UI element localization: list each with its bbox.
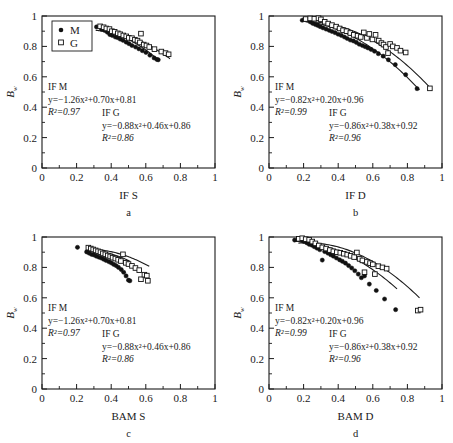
data-point-open-square bbox=[386, 51, 391, 56]
data-point-open-square bbox=[352, 255, 357, 260]
x-tick-label: 0 bbox=[266, 171, 272, 183]
y-tick-label: 0.6 bbox=[23, 292, 37, 304]
data-point-open-square bbox=[147, 45, 152, 50]
x-tick-label: 0.2 bbox=[297, 392, 311, 404]
data-point-filled-circle bbox=[415, 87, 419, 91]
data-point-open-square bbox=[362, 30, 367, 35]
chart-panel-a: 00.20.40.60.8100.20.40.60.81MGBwIF SaIF … bbox=[0, 0, 226, 221]
annotation-title-1: IF M bbox=[48, 82, 68, 92]
data-point-open-square bbox=[398, 48, 403, 53]
y-tick-label: 0.8 bbox=[23, 261, 37, 273]
data-point-open-square bbox=[121, 252, 126, 257]
y-tick-label: 1 bbox=[32, 10, 38, 22]
annotation-r2-1: R²=0.97 bbox=[47, 107, 81, 117]
data-point-open-square bbox=[367, 32, 372, 37]
data-point-open-square bbox=[358, 35, 363, 40]
annotation-equation-2: y=−0.88x²+0.46x+0.86 bbox=[102, 121, 191, 131]
y-tick-label: 1 bbox=[32, 231, 38, 243]
annotation-equation-1: y=−0.82x²+0.20x+0.96 bbox=[275, 95, 364, 105]
legend-label-g: G bbox=[70, 37, 78, 49]
plot-frame bbox=[269, 16, 442, 168]
y-tick-label: 0.8 bbox=[23, 40, 37, 52]
chart-panel-d: 00.20.40.60.8100.20.40.60.81BwBAM DdIF M… bbox=[227, 221, 453, 442]
data-point-open-square bbox=[418, 307, 423, 312]
y-tick-label: 0.2 bbox=[250, 132, 264, 144]
data-point-open-square bbox=[403, 50, 408, 55]
annotation-title-2: IF G bbox=[102, 108, 120, 118]
y-tick-label: 0.6 bbox=[250, 292, 264, 304]
data-point-open-square bbox=[371, 262, 376, 267]
y-tick-label: 0 bbox=[259, 383, 265, 395]
y-axis-title-text: Bw bbox=[231, 307, 246, 319]
x-tick-label: 0.4 bbox=[331, 392, 345, 404]
data-point-filled-circle bbox=[404, 73, 408, 77]
data-point-open-square bbox=[373, 33, 378, 38]
x-tick-label: 0.6 bbox=[366, 392, 380, 404]
data-point-filled-circle bbox=[353, 269, 357, 273]
chart-panel-c: 00.20.40.60.8100.20.40.60.81BwBAM ScIF M… bbox=[0, 221, 226, 442]
data-point-open-square bbox=[139, 277, 144, 282]
series-M bbox=[300, 17, 419, 91]
data-point-open-square bbox=[139, 31, 144, 36]
legend-marker-filled-circle bbox=[59, 28, 64, 33]
series-G bbox=[86, 245, 150, 283]
data-point-filled-circle bbox=[393, 63, 397, 67]
data-point-filled-circle bbox=[156, 58, 160, 62]
y-axis-title: Bw bbox=[231, 86, 246, 98]
y-tick-label: 0.8 bbox=[250, 261, 264, 273]
y-axis-title-sub: w bbox=[238, 86, 246, 91]
y-tick-label: 0 bbox=[32, 162, 38, 174]
x-tick-label: 0.6 bbox=[139, 171, 153, 183]
y-axis-title-text: Bw bbox=[4, 307, 19, 319]
plot-svg: 00.20.40.60.8100.20.40.60.81MGBwIF SaIF … bbox=[0, 0, 226, 221]
y-axis-title-sub: w bbox=[11, 86, 19, 91]
data-point-open-square bbox=[362, 270, 367, 275]
y-tick-label: 0.4 bbox=[23, 101, 37, 113]
annotation-r2-2: R²=0.86 bbox=[101, 133, 134, 143]
x-tick-label: 0.4 bbox=[104, 392, 118, 404]
data-point-open-square bbox=[119, 259, 124, 264]
data-point-open-square bbox=[384, 266, 389, 271]
y-tick-label: 1 bbox=[259, 231, 265, 243]
data-point-open-square bbox=[145, 273, 150, 278]
annotation-r2-2: R²=0.96 bbox=[328, 354, 361, 364]
x-tick-label: 0.2 bbox=[70, 171, 84, 183]
data-point-filled-circle bbox=[394, 308, 398, 312]
y-tick-label: 1 bbox=[259, 10, 265, 22]
x-tick-label: 0.4 bbox=[331, 171, 345, 183]
x-tick-label: 0.2 bbox=[70, 392, 84, 404]
x-tick-label: 0 bbox=[266, 392, 272, 404]
annotation-equation-1: y=−0.82x²+0.20x+0.96 bbox=[275, 316, 364, 326]
chart-panel-b: 00.20.40.60.8100.20.40.60.81BwIF DbIF My… bbox=[227, 0, 453, 221]
plot-svg: 00.20.40.60.8100.20.40.60.81BwBAM ScIF M… bbox=[0, 221, 226, 442]
data-point-open-square bbox=[370, 37, 375, 42]
x-tick-label: 0.6 bbox=[139, 392, 153, 404]
x-tick-label: 1 bbox=[212, 392, 218, 404]
data-point-filled-circle bbox=[382, 297, 386, 301]
data-point-open-square bbox=[355, 250, 360, 255]
annotation-r2-2: R²=0.86 bbox=[101, 354, 134, 364]
annotation-equation-2: y=−0.88x²+0.46x+0.86 bbox=[102, 342, 191, 352]
y-tick-label: 0.2 bbox=[23, 353, 37, 365]
plot-frame bbox=[42, 237, 215, 389]
data-point-filled-circle bbox=[148, 53, 152, 57]
annotation-title-1: IF M bbox=[275, 82, 295, 92]
y-tick-label: 0.2 bbox=[23, 132, 37, 144]
legend-marker-open-square bbox=[59, 40, 64, 45]
y-axis-title: Bw bbox=[4, 307, 19, 319]
x-tick-label: 0.8 bbox=[401, 171, 415, 183]
panel-caption: a bbox=[126, 207, 131, 218]
data-point-filled-circle bbox=[356, 272, 360, 276]
x-axis-title: BAM D bbox=[338, 410, 374, 422]
data-point-filled-circle bbox=[381, 54, 385, 58]
y-axis-title-sub: w bbox=[238, 307, 246, 312]
x-tick-label: 1 bbox=[439, 392, 445, 404]
annotation-r2-1: R²=0.97 bbox=[47, 328, 81, 338]
y-tick-label: 0.4 bbox=[250, 101, 264, 113]
x-axis-title: IF S bbox=[119, 189, 138, 201]
x-tick-label: 0.8 bbox=[174, 392, 188, 404]
data-point-filled-circle bbox=[320, 258, 324, 262]
x-tick-label: 0.6 bbox=[366, 171, 380, 183]
y-tick-label: 0.6 bbox=[250, 71, 264, 83]
data-point-filled-circle bbox=[374, 288, 378, 292]
